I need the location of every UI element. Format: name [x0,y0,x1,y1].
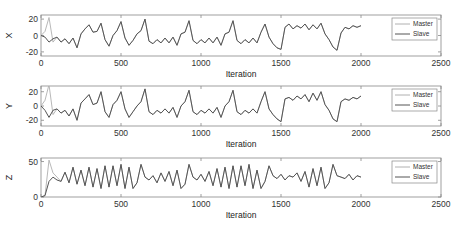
y-axis-label: Y [4,103,14,109]
x-tick-label: 1500 [272,128,291,138]
x-tick-label: 0 [39,199,44,209]
x-axis-label: Iteration [226,210,257,220]
series-slave-line [41,19,361,50]
x-tick-label: 500 [114,199,128,209]
y-tick-label: 20 [29,87,39,97]
y-tick-label: -20 [26,115,39,125]
legend-label-master: Master [413,163,434,170]
x-tick-label: 2500 [432,58,451,68]
legend: MasterSlave [392,89,437,111]
legend-label-master: Master [413,20,434,27]
x-tick-label: 500 [114,58,128,68]
x-tick-label: 2000 [352,58,371,68]
x-tick-label: 0 [39,128,44,138]
series-slave-line [41,89,361,122]
series-slave-line [41,164,361,197]
y-tick-label: 0 [33,101,38,111]
figure: 05001000150020002500200-20XIterationMast… [0,0,467,226]
series-master-line [41,160,361,197]
y-axis-label: X [4,32,14,38]
x-tick-label: 1000 [192,128,211,138]
x-tick-label: 2500 [432,128,451,138]
series-master-line [41,85,361,122]
legend: MasterSlave [392,18,437,40]
subplot-x: 05001000150020002500200-20XIterationMast… [4,14,451,79]
legend-label-slave: Slave [413,30,430,37]
legend-label-slave: Slave [413,173,430,180]
y-tick-label: 50 [29,157,39,167]
x-tick-label: 1000 [192,58,211,68]
series-master-line [41,18,361,51]
legend: MasterSlave [392,161,437,183]
y-tick-label: 0 [33,192,38,202]
y-tick-label: 20 [29,14,39,24]
axes-box [41,15,441,56]
x-tick-label: 1500 [272,199,291,209]
x-tick-label: 500 [114,128,128,138]
x-tick-label: 2000 [352,128,371,138]
x-axis-label: Iteration [226,69,257,79]
x-tick-label: 1500 [272,58,291,68]
x-axis-label: Iteration [226,139,257,149]
y-tick-label: -20 [26,47,39,57]
x-tick-label: 2500 [432,199,451,209]
y-tick-label: 0 [33,31,38,41]
subplot-z: 05001000150020002500500ZIterationMasterS… [4,157,451,220]
subplot-y: 05001000150020002500200-20YIterationMast… [4,85,451,149]
x-tick-label: 0 [39,58,44,68]
x-tick-label: 2000 [352,199,371,209]
legend-label-master: Master [413,91,434,98]
x-tick-label: 1000 [192,199,211,209]
y-axis-label: Z [4,174,14,180]
axes-box [41,158,441,197]
legend-label-slave: Slave [413,101,430,108]
